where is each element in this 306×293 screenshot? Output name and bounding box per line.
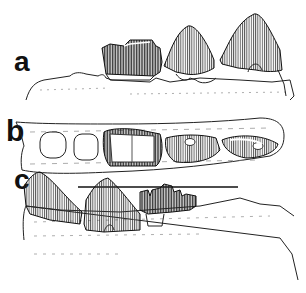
figure-drawing (0, 0, 306, 293)
panel-c-drawing (23, 172, 298, 280)
tooth-molar2-a (220, 14, 282, 72)
tooth-premolar-a (102, 40, 162, 76)
panel-b-drawing (16, 118, 284, 173)
tooth-premolar-c (140, 184, 196, 214)
alveolus-1 (40, 132, 66, 158)
alveolus-2 (74, 134, 98, 160)
tooth-molar1-c (84, 178, 140, 232)
tooth-molar1-a (164, 26, 214, 75)
jaw-bone-a (26, 73, 294, 100)
panel-a-drawing (26, 14, 294, 100)
tooth-molar2-c (24, 172, 82, 224)
